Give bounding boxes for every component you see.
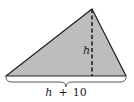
altitude-label: h (83, 44, 90, 57)
base-label-op: + (58, 86, 67, 99)
triangle-diagram: h h + 10 (0, 0, 134, 102)
base-label-var: h (45, 86, 52, 99)
base-label-num: 10 (73, 86, 87, 99)
triangle-shape (6, 9, 126, 76)
